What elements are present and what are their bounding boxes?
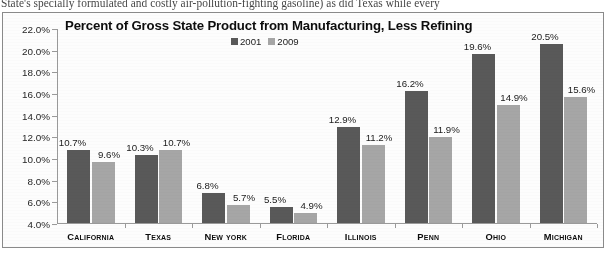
y-axis-label: 6.0%: [8, 197, 50, 208]
data-label: 6.8%: [196, 180, 218, 191]
y-axis-label: 22.0%: [8, 24, 50, 35]
bar-2009[interactable]: [92, 162, 115, 223]
y-axis-label: 12.0%: [8, 132, 50, 143]
y-axis-tick: [52, 159, 57, 160]
bar-2001[interactable]: [135, 155, 158, 223]
y-axis-label: 16.0%: [8, 89, 50, 100]
data-label: 10.7%: [59, 137, 86, 148]
data-label: 5.7%: [233, 192, 255, 203]
y-axis-label: 18.0%: [8, 67, 50, 78]
bar-2009[interactable]: [227, 205, 250, 223]
y-axis-tick: [52, 116, 57, 117]
data-label: 15.6%: [568, 84, 595, 95]
x-axis-tick: [462, 224, 463, 228]
x-axis-tick: [125, 224, 126, 228]
data-label: 11.2%: [366, 132, 393, 143]
bar-2001[interactable]: [67, 150, 90, 223]
bar-2009[interactable]: [159, 150, 182, 223]
data-label: 9.6%: [98, 149, 120, 160]
bar-2001[interactable]: [202, 193, 225, 223]
data-label: 10.7%: [163, 137, 190, 148]
data-label: 12.9%: [329, 114, 356, 125]
bar-2009[interactable]: [294, 213, 317, 223]
y-axis-label: 8.0%: [8, 175, 50, 186]
bar-2001[interactable]: [337, 127, 360, 223]
category-label: Penn: [417, 231, 439, 242]
y-axis-line: [57, 29, 58, 224]
x-axis-tick: [327, 224, 328, 228]
bar-2001[interactable]: [405, 91, 428, 223]
y-axis-tick: [52, 181, 57, 182]
bar-2001[interactable]: [270, 207, 293, 223]
data-label: 19.6%: [464, 41, 491, 52]
data-label: 20.5%: [531, 31, 558, 42]
bar-2001[interactable]: [540, 44, 563, 223]
category-label: Illinois: [345, 231, 377, 242]
category-label: Texas: [145, 231, 171, 242]
x-axis-tick: [260, 224, 261, 228]
bar-2009[interactable]: [362, 145, 385, 223]
y-axis-tick: [52, 94, 57, 95]
data-label: 11.9%: [433, 124, 460, 135]
data-label: 16.2%: [396, 78, 423, 89]
y-axis-tick: [52, 224, 57, 225]
y-axis-tick: [52, 72, 57, 73]
x-axis-tick: [395, 224, 396, 228]
y-axis-label: 20.0%: [8, 45, 50, 56]
y-axis-label: 10.0%: [8, 154, 50, 165]
data-label: 10.3%: [126, 142, 153, 153]
data-label: 5.5%: [264, 194, 286, 205]
bar-2009[interactable]: [429, 137, 452, 223]
y-axis-tick: [52, 51, 57, 52]
category-label: Ohio: [485, 231, 506, 242]
bar-2009[interactable]: [497, 105, 520, 223]
category-label: Florida: [276, 231, 310, 242]
y-axis-label: 14.0%: [8, 110, 50, 121]
y-axis-tick: [52, 29, 57, 30]
x-axis-tick: [597, 224, 598, 228]
plot-area: 22.0%20.0%18.0%16.0%14.0%12.0%10.0%8.0%6…: [57, 29, 597, 224]
bar-2009[interactable]: [564, 97, 587, 223]
category-label: New York: [205, 231, 248, 242]
data-label: 14.9%: [500, 92, 527, 103]
scanned-page-text: State's specially formulated and costly …: [0, 0, 609, 12]
chart-container: Percent of Gross State Product from Manu…: [2, 12, 604, 248]
scan-text-line: State's specially formulated and costly …: [1, 0, 440, 9]
bar-2001[interactable]: [472, 54, 495, 223]
y-axis-tick: [52, 202, 57, 203]
data-label: 4.9%: [300, 200, 322, 211]
y-axis-tick: [52, 137, 57, 138]
category-label: California: [67, 231, 114, 242]
category-label: Michigan: [544, 231, 583, 242]
x-axis-tick: [530, 224, 531, 228]
x-axis-tick: [192, 224, 193, 228]
y-axis-label: 4.0%: [8, 219, 50, 230]
